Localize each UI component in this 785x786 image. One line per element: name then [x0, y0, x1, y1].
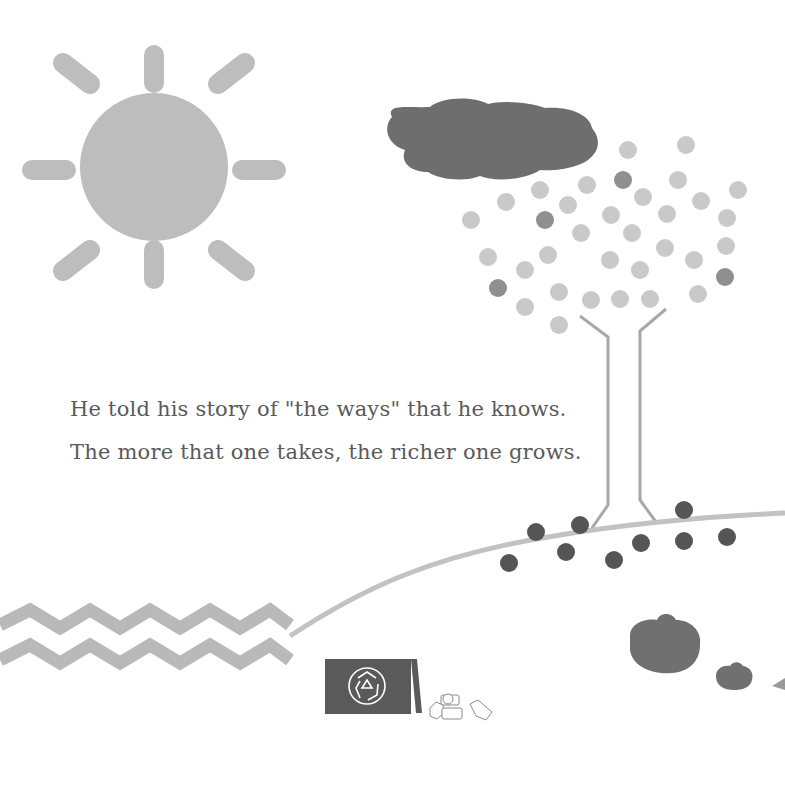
verse-line-1: He told his story of "the ways" that he … — [70, 388, 582, 431]
cloud-icon — [387, 99, 598, 180]
water-waves — [0, 610, 290, 663]
seeds — [500, 501, 736, 572]
rocks — [630, 614, 785, 690]
litter-blocks — [430, 694, 492, 720]
tree-trunk — [580, 309, 666, 528]
story-verse: He told his story of "the ways" that he … — [70, 388, 582, 474]
sun-icon — [32, 55, 276, 279]
verse-line-2: The more that one takes, the richer one … — [70, 431, 582, 474]
recycle-bin — [325, 659, 422, 714]
